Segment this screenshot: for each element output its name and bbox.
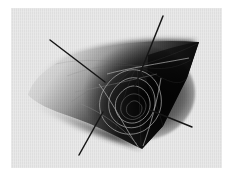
figure-container xyxy=(0,0,231,176)
surface-plot xyxy=(11,8,222,168)
plot-area xyxy=(11,8,222,168)
surface-core-shadow xyxy=(79,45,195,141)
